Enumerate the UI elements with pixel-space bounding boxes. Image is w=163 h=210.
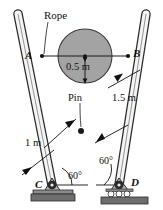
label-point-b: B bbox=[133, 48, 140, 59]
pin-joint bbox=[78, 128, 84, 134]
strut-left-seam bbox=[18, 14, 52, 185]
dim1-upper-arrow bbox=[65, 120, 75, 128]
rope-leader-line bbox=[44, 22, 48, 54]
label-angle-left: 60° bbox=[68, 171, 82, 181]
ground-left bbox=[31, 194, 75, 201]
support-c-pin-hole bbox=[50, 184, 53, 187]
label-diameter-dim: 0.5 m bbox=[66, 62, 90, 73]
point-a-dot bbox=[40, 54, 44, 58]
dim15-lower-arrow bbox=[96, 133, 105, 142]
ground-right bbox=[101, 197, 148, 204]
point-b-dot bbox=[126, 54, 130, 58]
pin-leader-line bbox=[80, 103, 81, 127]
roller-2 bbox=[116, 191, 122, 197]
label-pin: Pin bbox=[68, 93, 82, 104]
roller-3 bbox=[124, 191, 130, 197]
label-point-d: D bbox=[131, 177, 139, 188]
support-d bbox=[101, 178, 148, 204]
angle-arc-right bbox=[104, 164, 111, 185]
label-rope: Rope bbox=[44, 10, 67, 21]
support-c-plate bbox=[33, 190, 73, 194]
statics-figure: Rope A B 0.5 m Pin 1.5 m 1 m 60° 60° C D bbox=[0, 0, 163, 210]
support-d-pin-hole bbox=[117, 184, 120, 187]
label-length-right: 1.5 m bbox=[112, 93, 136, 104]
label-point-c: C bbox=[35, 179, 42, 190]
label-angle-right: 60° bbox=[99, 156, 113, 166]
strut-left bbox=[18, 14, 52, 185]
label-length-left: 1 m bbox=[25, 138, 41, 149]
roller-1 bbox=[108, 191, 114, 197]
label-point-a: A bbox=[25, 50, 32, 61]
